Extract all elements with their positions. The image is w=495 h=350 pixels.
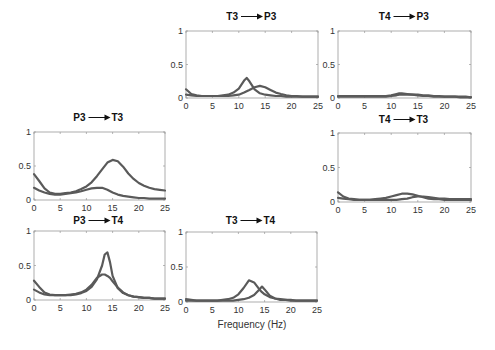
x-tick-label: 15 xyxy=(108,303,118,313)
x-tick-label: 5 xyxy=(210,101,215,111)
panel-title-target: T3 xyxy=(112,112,124,123)
x-tick-label: 0 xyxy=(31,303,36,313)
x-tick-label: 25 xyxy=(160,203,170,213)
x-tick-label: 15 xyxy=(413,205,423,215)
y-tick-label: 0.5 xyxy=(18,161,31,171)
panel-title-target: P3 xyxy=(417,11,430,22)
x-tick-label: 10 xyxy=(233,305,243,315)
arrowhead-icon xyxy=(105,115,111,121)
x-tick-label: 15 xyxy=(260,101,270,111)
panel-title-target: T4 xyxy=(112,215,124,226)
x-tick-label: 25 xyxy=(466,101,476,111)
x-tick-label: 5 xyxy=(58,203,63,213)
x-tick-label: 20 xyxy=(439,101,449,111)
x-tick-label: 10 xyxy=(386,205,396,215)
y-tick-label: 0 xyxy=(330,197,335,207)
panel-t4-to-p3: 051015202500.51T4P3 xyxy=(322,11,476,111)
y-tick-label: 0 xyxy=(330,93,335,103)
x-tick-label: 20 xyxy=(134,303,144,313)
x-tick-label: 15 xyxy=(413,101,423,111)
axes-box xyxy=(338,133,471,202)
panel-title-source: T3 xyxy=(226,215,238,226)
y-tick-label: 0 xyxy=(178,93,183,103)
x-axis-label: Frequency (Hz) xyxy=(218,319,287,330)
x-tick-label: 5 xyxy=(210,305,215,315)
arrowhead-icon xyxy=(410,117,416,123)
x-tick-label: 0 xyxy=(183,101,188,111)
axes-box xyxy=(34,132,165,200)
panel-title-source: P3 xyxy=(73,215,86,226)
axes-box xyxy=(186,232,317,302)
y-tick-label: 0.5 xyxy=(170,60,183,70)
coherence-figure: 051015202500.51T3P3051015202500.51T4P305… xyxy=(0,0,495,350)
y-tick-label: 0.5 xyxy=(322,163,335,173)
x-tick-label: 25 xyxy=(160,303,170,313)
panel-p3-to-t4: 051015202500.51P3T4 xyxy=(18,215,170,313)
arrowhead-icon xyxy=(257,14,263,20)
panel-title-target: T3 xyxy=(417,114,429,125)
y-tick-label: 0.5 xyxy=(18,261,31,271)
panel-t4-to-t3: 051015202500.51T4T3 xyxy=(322,114,476,215)
panel-title-source: P3 xyxy=(73,112,86,123)
y-tick-label: 1 xyxy=(178,227,183,237)
x-tick-label: 5 xyxy=(58,303,63,313)
panel-p3-to-t3: 051015202500.51P3T3 xyxy=(18,112,170,213)
y-tick-label: 0.5 xyxy=(322,60,335,70)
panel-title-source: T3 xyxy=(226,11,238,22)
y-tick-label: 1 xyxy=(178,26,183,36)
x-tick-label: 10 xyxy=(81,203,91,213)
y-tick-label: 1 xyxy=(26,226,31,236)
panel-title-target: T4 xyxy=(264,215,276,226)
x-tick-label: 20 xyxy=(287,101,297,111)
x-tick-label: 25 xyxy=(312,305,322,315)
panel-t3-to-p3: 051015202500.51T3P3 xyxy=(170,11,323,111)
axes-box xyxy=(34,231,165,300)
y-tick-label: 1 xyxy=(26,127,31,137)
x-tick-label: 10 xyxy=(81,303,91,313)
x-tick-label: 25 xyxy=(313,101,323,111)
y-tick-label: 1 xyxy=(330,26,335,36)
panel-title-source: T4 xyxy=(379,11,391,22)
x-tick-label: 0 xyxy=(183,305,188,315)
x-tick-label: 15 xyxy=(260,305,270,315)
x-tick-label: 20 xyxy=(134,203,144,213)
panel-title-source: T4 xyxy=(379,114,391,125)
panel-t3-to-t4: 051015202500.51T3T4 xyxy=(170,215,322,315)
axes-box xyxy=(338,31,471,98)
y-tick-label: 0 xyxy=(178,297,183,307)
x-tick-label: 10 xyxy=(234,101,244,111)
x-tick-label: 10 xyxy=(386,101,396,111)
x-tick-label: 0 xyxy=(31,203,36,213)
x-tick-label: 25 xyxy=(466,205,476,215)
arrowhead-icon xyxy=(410,14,416,20)
arrowhead-icon xyxy=(257,218,263,224)
x-tick-label: 5 xyxy=(362,205,367,215)
x-tick-label: 5 xyxy=(362,101,367,111)
panel-title-target: P3 xyxy=(264,11,277,22)
x-tick-label: 0 xyxy=(335,205,340,215)
x-tick-label: 15 xyxy=(108,203,118,213)
arrowhead-icon xyxy=(105,218,111,224)
y-tick-label: 0 xyxy=(26,295,31,305)
x-tick-label: 0 xyxy=(335,101,340,111)
y-tick-label: 0 xyxy=(26,195,31,205)
y-tick-label: 1 xyxy=(330,128,335,138)
x-tick-label: 20 xyxy=(439,205,449,215)
x-tick-label: 20 xyxy=(286,305,296,315)
y-tick-label: 0.5 xyxy=(170,262,183,272)
